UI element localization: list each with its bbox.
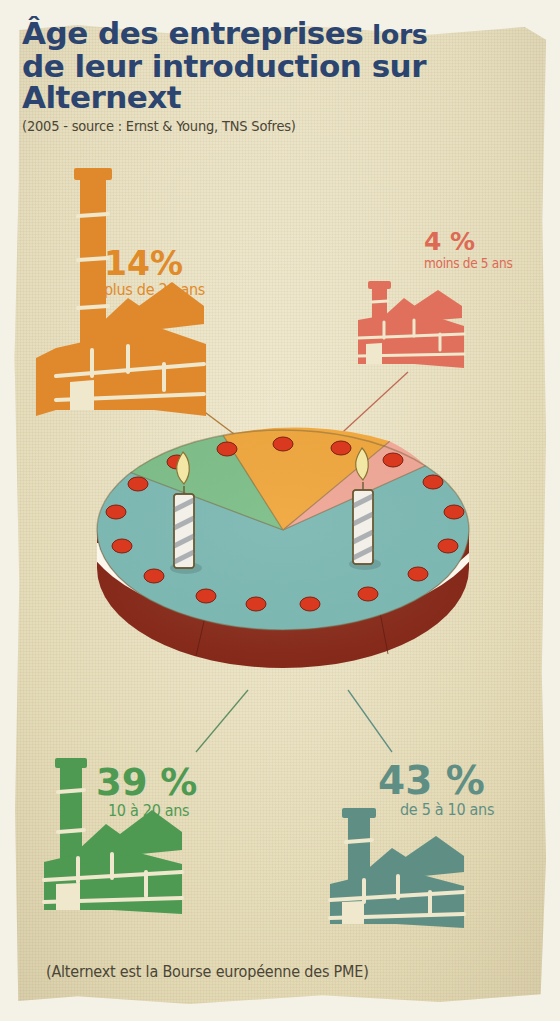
callout-ten-twenty-text: 10 à 20 ans bbox=[96, 801, 197, 820]
footer-note: (Alternext est la Bourse européenne des … bbox=[46, 962, 486, 981]
title-line2: de leur introduction sur Alternext bbox=[22, 51, 522, 114]
page-title: Âge des entreprises lors de leur introdu… bbox=[22, 18, 522, 114]
page-subtitle: (2005 - source : Ernst & Young, TNS Sofr… bbox=[22, 118, 522, 134]
callout-under5-text: moins de 5 ans bbox=[424, 255, 512, 271]
callout-ten-twenty: 39 % 10 à 20 ans bbox=[96, 765, 197, 820]
factory-icon-five-ten bbox=[324, 800, 470, 930]
callout-five-ten-percent: 43 % bbox=[378, 762, 494, 799]
callout-over20-text: plus de 20 ans bbox=[104, 280, 205, 299]
pie-top bbox=[97, 428, 469, 630]
callout-under5-percent: 4 % bbox=[424, 230, 512, 254]
callout-under5: 4 % moins de 5 ans bbox=[424, 230, 512, 271]
title-line1-strong: Âge des entreprises bbox=[22, 15, 363, 51]
callout-over20-percent: 14% bbox=[104, 248, 205, 279]
callout-ten-twenty-percent: 39 % bbox=[96, 765, 197, 800]
callout-five-ten: 43 % de 5 à 10 ans bbox=[378, 762, 494, 819]
infographic-poster: Âge des entreprises lors de leur introdu… bbox=[0, 0, 560, 1021]
callout-over20: 14% plus de 20 ans bbox=[104, 248, 205, 299]
page-header: Âge des entreprises lors de leur introdu… bbox=[22, 18, 522, 134]
cake-pie-chart bbox=[88, 398, 478, 718]
title-line1-light: lors bbox=[363, 19, 427, 50]
factory-icon-under5 bbox=[352, 272, 468, 376]
